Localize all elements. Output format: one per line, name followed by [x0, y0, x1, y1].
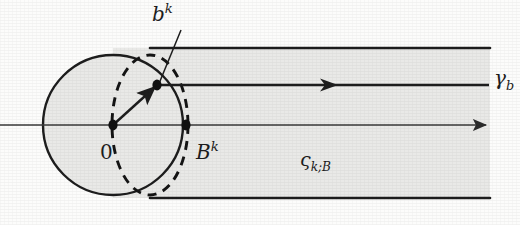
label-region-zeta: ςk;B [300, 150, 331, 169]
label-bk-sup: k [165, 1, 173, 16]
label-Bk-sup: k [211, 139, 219, 154]
label-bk-base: b [152, 2, 165, 26]
label-gamma-b: γb [494, 68, 514, 88]
label-zeta-sub: k;B [311, 160, 331, 174]
label-origin-base: 0 [100, 140, 113, 164]
Bk-point [181, 120, 190, 131]
label-b-superscript-k: bk [152, 4, 173, 24]
diagram-svg [0, 0, 520, 225]
figure-canvas: bk 0 Bk ςk;B γb [0, 0, 520, 225]
label-gamma-sub: b [506, 78, 514, 93]
bk-point [152, 80, 161, 91]
label-gamma-base: γ [494, 66, 506, 90]
label-B-superscript-k: Bk [196, 142, 219, 162]
origin-point [108, 120, 117, 131]
label-Bk-base: B [196, 140, 211, 164]
label-origin: 0 [100, 142, 113, 162]
label-zeta-base: ς [300, 148, 311, 170]
